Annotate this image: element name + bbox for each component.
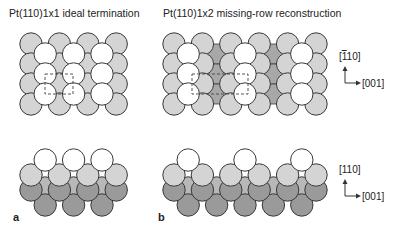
top-layer-atom [91, 43, 113, 65]
top-layer-atom [177, 149, 199, 171]
arrowhead-up-icon [343, 66, 348, 71]
top-layer-atom [234, 149, 256, 171]
top-layer-atom [177, 63, 199, 85]
top-layer-atom [291, 83, 313, 105]
arrowhead-right-icon [356, 194, 361, 199]
side-view-axes: [110] [001] [339, 164, 384, 202]
panel-a-side-view [20, 149, 128, 216]
panel-b-title: Pt(110)1x2 missing-row reconstruction [163, 7, 342, 19]
top-layer-atom [291, 149, 313, 171]
panel-label-b: b [158, 211, 165, 223]
top-layer-atom [91, 63, 113, 85]
top-layer-atom [91, 83, 113, 105]
axis-label-001-side: [001] [362, 191, 384, 202]
axis-label-110: [110] [339, 164, 361, 175]
top-layer-atom [291, 43, 313, 65]
panel-a-title: Pt(110)1x1 ideal termination [9, 7, 140, 19]
axis-label-1-10: [110] [339, 51, 361, 62]
top-layer-atom [62, 43, 84, 65]
top-layer-atom [291, 63, 313, 85]
top-layer-atom [234, 43, 256, 65]
panel-label-a: a [13, 211, 20, 223]
top-layer-atom [34, 149, 56, 171]
top-layer-atom [34, 43, 56, 65]
pt110-surface-diagram: Pt(110)1x1 ideal termination Pt(110)1x2 … [0, 0, 399, 232]
panel-b-side-view [163, 149, 327, 216]
panel-b-top-view [163, 33, 327, 115]
top-layer-atom [91, 149, 113, 171]
top-view-axes: [110] [001] [339, 51, 384, 89]
panel-a-top-view [20, 33, 128, 115]
top-layer-atom [62, 149, 84, 171]
arrowhead-up-icon [343, 179, 348, 184]
top-layer-atom [177, 43, 199, 65]
axis-label-001-top: [001] [362, 78, 384, 89]
arrowhead-right-icon [356, 81, 361, 86]
